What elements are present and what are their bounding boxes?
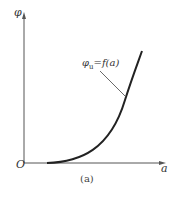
y-axis <box>22 12 26 163</box>
y-axis-label: φ <box>14 6 22 19</box>
x-axis-label: a <box>161 162 168 175</box>
leader-line <box>100 71 126 97</box>
diagram-canvas <box>0 0 175 200</box>
curve-label-main: φ <box>82 57 89 68</box>
curve-label-rest: =f(a) <box>94 57 120 68</box>
curve-label: φu=f(a) <box>82 57 119 71</box>
figure-caption: (a) <box>80 173 94 184</box>
origin-label: O <box>16 158 25 171</box>
y-axis-arrow-icon <box>22 12 26 19</box>
x-axis <box>24 161 166 165</box>
